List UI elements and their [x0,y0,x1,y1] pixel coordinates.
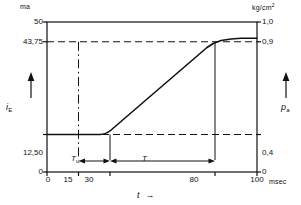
y-axis-arrow-icon [28,72,35,98]
interval-arrow-t [110,158,215,163]
x-axis-ticks [47,172,257,176]
y2-axis-arrow-icon [283,72,290,98]
step-response-chart: ma kg/cm2 50 43,75 12,50 0 1,0 0,9 0,4 0… [0,0,301,205]
chart-canvas [0,0,301,205]
interval-arrow-tu [79,158,111,163]
y2-axis-ticks [257,22,261,172]
